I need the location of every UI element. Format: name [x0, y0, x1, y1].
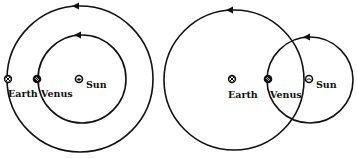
- venus-label: Venus: [269, 89, 302, 100]
- earth-symbol-icon: [228, 75, 236, 83]
- sun-symbol-icon: [305, 75, 314, 84]
- geocentric-diagram: Earth Venus Sun: [164, 7, 353, 151]
- venus-label: Venus: [40, 88, 73, 99]
- sun-label: Sun: [86, 79, 107, 90]
- earth-label: Earth: [8, 88, 38, 99]
- orbit-diagrams: Earth Venus Sun Earth Venus Sun: [0, 0, 357, 158]
- earth-orbit-arrowhead-icon: [72, 3, 79, 10]
- earth-label: Earth: [228, 89, 258, 100]
- sun-label: Sun: [316, 79, 337, 90]
- venus-epicycle-arrowhead-icon: [303, 34, 310, 41]
- earth-symbol-icon: [4, 75, 12, 83]
- sun-orbit-arrowhead-icon: [226, 7, 233, 14]
- heliocentric-diagram: Earth Venus Sun: [4, 3, 153, 153]
- venus-symbol-icon: [264, 75, 273, 84]
- venus-orbit-arrowhead-icon: [74, 32, 81, 39]
- sun-symbol-icon: [75, 75, 84, 84]
- venus-symbol-icon: [33, 75, 42, 84]
